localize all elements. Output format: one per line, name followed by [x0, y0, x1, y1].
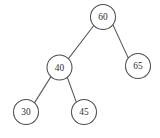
- tree-node-right[interactable]: 65: [126, 54, 151, 79]
- tree-node-right-leaf[interactable]: 45: [72, 100, 97, 125]
- tree-edge-60-40: [68, 26, 94, 59]
- node-label: 45: [79, 107, 89, 117]
- tree-node-root[interactable]: 60: [91, 5, 116, 30]
- node-label: 40: [55, 63, 65, 73]
- node-label: 60: [98, 12, 108, 22]
- tree-nodes: 60 40 65 30 45: [14, 5, 151, 125]
- binary-tree-figure: 60 40 65 30 45: [0, 0, 160, 138]
- tree-node-left-leaf[interactable]: 30: [14, 100, 39, 125]
- tree-edge-40-45: [67, 77, 76, 102]
- node-label: 65: [133, 61, 143, 71]
- tree-edge-40-30: [34, 77, 51, 104]
- tree-edge-60-65: [113, 25, 129, 59]
- node-label: 30: [21, 107, 31, 117]
- tree-node-left[interactable]: 40: [47, 55, 72, 80]
- tree-canvas: 60 40 65 30 45: [0, 0, 160, 138]
